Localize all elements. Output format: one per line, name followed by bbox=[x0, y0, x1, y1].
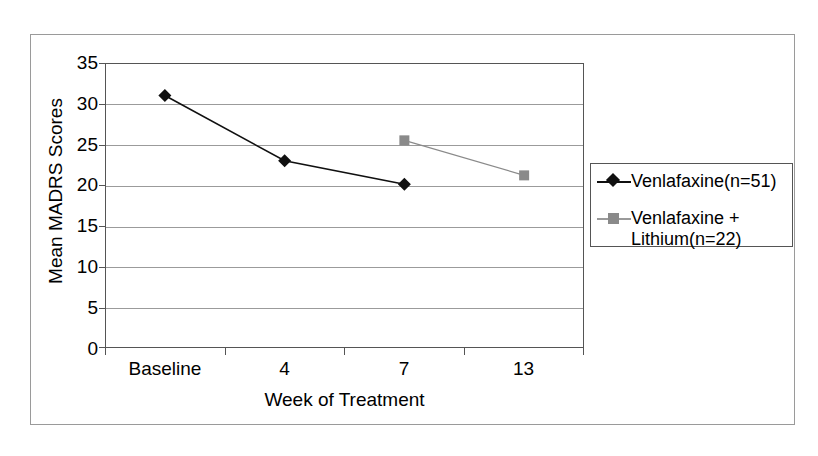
x-tick-mark bbox=[583, 348, 584, 355]
y-tick-label: 35 bbox=[38, 53, 98, 72]
legend-label: Venlafaxine + Lithium(n=22) bbox=[631, 208, 742, 250]
x-tick-mark bbox=[344, 348, 345, 355]
legend-entry-venlafaxine-lithium: Venlafaxine + Lithium(n=22) bbox=[597, 208, 742, 250]
gridline bbox=[106, 308, 583, 309]
gridline bbox=[106, 104, 583, 105]
x-axis-title: Week of Treatment bbox=[105, 389, 584, 411]
y-tick-label: 30 bbox=[38, 94, 98, 113]
chart-figure: Mean MADRS Scores 35 30 25 20 15 10 5 0 … bbox=[0, 0, 818, 456]
y-tick-label: 20 bbox=[38, 175, 98, 194]
gridline bbox=[106, 145, 583, 146]
y-axis-tick-labels: 35 30 25 20 15 10 5 0 bbox=[36, 63, 98, 348]
x-tick-label: Baseline bbox=[105, 358, 225, 380]
y-tick-label: 25 bbox=[38, 135, 98, 154]
legend-label: Venlafaxine(n=51) bbox=[631, 171, 777, 192]
x-tick-mark bbox=[225, 348, 226, 355]
gridline bbox=[106, 186, 583, 187]
y-tick-label: 0 bbox=[38, 339, 98, 358]
diamond-marker-icon bbox=[597, 171, 631, 193]
y-tick-label: 15 bbox=[38, 216, 98, 235]
x-tick-mark bbox=[464, 348, 465, 355]
square-marker-icon bbox=[597, 208, 631, 230]
plot-area bbox=[105, 63, 584, 348]
y-tick-label: 5 bbox=[38, 298, 98, 317]
x-tick-label: 7 bbox=[344, 358, 464, 380]
y-tick-label: 10 bbox=[38, 257, 98, 276]
legend-entry-venlafaxine: Venlafaxine(n=51) bbox=[597, 171, 777, 193]
x-tick-label: 13 bbox=[464, 358, 583, 380]
gridline bbox=[106, 227, 583, 228]
x-tick-mark bbox=[105, 348, 106, 355]
x-tick-label: 4 bbox=[225, 358, 344, 380]
legend: Venlafaxine(n=51) Venlafaxine + Lithium(… bbox=[590, 163, 793, 247]
gridline bbox=[106, 267, 583, 268]
